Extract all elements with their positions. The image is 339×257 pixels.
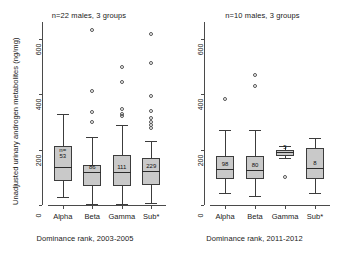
whisker-cap-upper (86, 137, 98, 138)
x-tick (151, 206, 152, 209)
whisker-upper (151, 141, 152, 159)
figure-root: n=22 males, 3 groups Unadjusted urinary … (0, 0, 339, 257)
whisker-lower (122, 186, 123, 205)
whisker-upper (92, 137, 93, 165)
outlier-point (253, 84, 257, 88)
outlier-point (149, 61, 153, 65)
y-axis-label: Unadjusted urinary androgen metabolites … (11, 38, 20, 205)
x-tick (255, 206, 256, 209)
median-line (113, 172, 131, 173)
median-line (306, 168, 325, 169)
whisker-cap-upper (249, 130, 262, 131)
y-tick-label: 600 (35, 39, 42, 61)
box (246, 156, 265, 179)
median-line (276, 152, 295, 153)
whisker-upper (63, 114, 64, 147)
median-line (54, 167, 72, 168)
outlier-point (90, 120, 94, 124)
whisker-cap-upper (309, 138, 322, 139)
y-axis-line (42, 22, 43, 205)
whisker-upper (122, 125, 123, 154)
whisker-lower (255, 179, 256, 196)
y-tick-label: 200 (35, 150, 42, 172)
x-axis-caption-right: Dominance rank, 2011-2012 (170, 234, 339, 243)
whisker-cap-lower (145, 203, 157, 204)
y-axis-line (204, 22, 205, 205)
median-line (83, 172, 101, 173)
box-sample-size-label: n=53 (54, 147, 72, 159)
whisker-upper (225, 130, 226, 156)
whisker-cap-upper (145, 141, 157, 142)
outlier-point (90, 110, 94, 114)
x-tick (315, 206, 316, 209)
box-sample-size-label: 86 (83, 164, 101, 170)
whisker-lower (92, 186, 93, 203)
outlier-point (149, 94, 153, 98)
x-axis-caption-left: Dominance rank, 2003-2005 (0, 234, 170, 243)
outlier-point (223, 97, 227, 101)
x-axis-line (48, 205, 166, 206)
y-tick-label: 200 (197, 150, 204, 172)
outlier-point (253, 73, 257, 77)
outlier-point (90, 89, 94, 93)
x-tick-label: Sub* (129, 212, 173, 221)
panel-left: n=22 males, 3 groups Unadjusted urinary … (0, 0, 170, 257)
x-tick (225, 206, 226, 209)
whisker-cap-lower (249, 196, 262, 197)
whisker-cap-lower (219, 193, 232, 194)
panel-right: n=10 males, 3 groups 0200400600Alpha98Be… (170, 0, 339, 257)
whisker-cap-lower (86, 204, 98, 205)
median-line (142, 171, 160, 172)
outlier-point (120, 107, 124, 111)
panel-right-title: n=10 males, 3 groups (178, 11, 339, 20)
box (216, 156, 235, 180)
x-tick (122, 206, 123, 209)
box-sample-size-label: 8 (306, 160, 325, 166)
whisker-cap-lower (116, 204, 128, 205)
outlier-point (120, 112, 124, 116)
whisker-upper (255, 130, 256, 156)
box-sample-size-label: 80 (246, 162, 265, 168)
x-tick-label: Sub* (293, 212, 337, 221)
whisker-cap-upper (57, 114, 69, 115)
whisker-cap-lower (309, 193, 322, 194)
outlier-point (120, 80, 124, 84)
outlier-point (149, 109, 153, 113)
y-tick-label: 400 (35, 94, 42, 116)
median-line (246, 170, 265, 171)
whisker-lower (315, 179, 316, 194)
whisker-upper (315, 138, 316, 148)
y-tick-label: 400 (197, 94, 204, 116)
whisker-lower (225, 179, 226, 192)
whisker-cap-lower (57, 197, 69, 198)
outlier-point (283, 175, 287, 179)
x-tick (92, 206, 93, 209)
x-tick (63, 206, 64, 209)
whisker-cap-upper (116, 125, 128, 126)
panel-left-title: n=22 males, 3 groups (4, 11, 174, 20)
x-axis-line (210, 205, 330, 206)
outlier-point (90, 28, 94, 32)
outlier-point (120, 65, 124, 69)
whisker-cap-lower (279, 158, 292, 159)
box-sample-size-label: 5 (276, 144, 295, 150)
box-sample-size-label: 229 (142, 163, 160, 169)
box-sample-size-label: 111 (113, 164, 131, 170)
outlier-point (149, 32, 153, 36)
y-tick-label: 600 (197, 39, 204, 61)
whisker-lower (63, 181, 64, 198)
whisker-lower (151, 185, 152, 203)
x-tick (285, 206, 286, 209)
median-line (216, 169, 235, 170)
box-sample-size-label: 98 (216, 161, 235, 167)
whisker-cap-upper (219, 130, 232, 131)
